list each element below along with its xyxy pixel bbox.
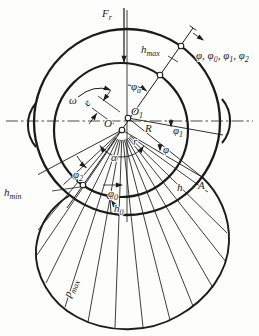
film-point-bore-upper: [178, 43, 184, 49]
phi-1-label: φ1: [173, 124, 183, 139]
journal-center-label: O1: [131, 105, 143, 120]
film-point-journal-upper: [157, 72, 163, 78]
h-min-label: hmin: [4, 186, 22, 201]
film-h-label: h: [177, 181, 183, 193]
h0-film-segment: [110, 199, 111, 213]
phi-label: φ: [163, 143, 169, 155]
bearing-diagram-figure: Frhmaxφ, φ0, φ1, φ2φaωeOO1φ1RrφhAαφ2hmin…: [0, 0, 259, 336]
radius-r-label: r: [133, 135, 138, 147]
angle-direction-arrowhead: [197, 34, 206, 42]
pressure-ray: [46, 139, 118, 283]
phi-a-label: φa: [131, 80, 141, 95]
pressure-ray: [37, 138, 116, 255]
phi-arrowhead: [158, 144, 163, 151]
bearing-diagram-canvas: Frhmaxφ, φ0, φ1, φ2φaωeOO1φ1RrφhAαφ2hmin…: [0, 0, 259, 336]
p-max-label: pmax: [60, 276, 82, 300]
phi-sequence-label: φ, φ0, φ1, φ2: [196, 49, 249, 64]
point-A-label: A: [197, 179, 205, 191]
phi0-arrowhead: [116, 183, 123, 188]
pressure-ray: [115, 140, 122, 328]
pressure-ray: [126, 139, 193, 306]
omega-label: ω: [69, 94, 77, 106]
h-max-label: hmax: [141, 43, 160, 58]
h-min-leader: [52, 187, 80, 191]
bearing-center-label: O: [104, 117, 112, 129]
pressure-ray: [124, 140, 170, 320]
bearing-center-point: [119, 127, 125, 133]
omega-arrowhead: [103, 85, 112, 92]
radius-R-label: R: [144, 122, 152, 134]
line-of-centers-end-tick: [190, 26, 197, 31]
e-dim-arrowhead-1: [91, 112, 99, 121]
pressure-ray: [123, 140, 143, 327]
force-label: Fr: [101, 7, 113, 22]
e-extension-line-2: [98, 96, 120, 112]
journal-center-point: [125, 115, 131, 121]
eccentricity-label: e: [80, 97, 92, 109]
alpha-label: α: [111, 151, 117, 163]
pressure-ray: [88, 140, 120, 322]
